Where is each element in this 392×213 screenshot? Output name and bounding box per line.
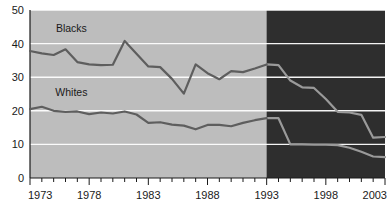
x-tick-label-1998: 1998 <box>314 189 338 201</box>
x-tick-label-1978: 1978 <box>77 189 101 201</box>
x-tick-label-1988: 1988 <box>195 189 219 201</box>
x-tick-label-2003: 2003 <box>363 189 387 201</box>
y-tick-label-50: 50 <box>12 4 24 16</box>
y-tick-label-10: 10 <box>12 138 24 150</box>
x-tick-label-1973: 1973 <box>28 189 52 201</box>
series-annotation-whites: Whites <box>55 86 87 98</box>
line-chart: 010203040501973197819831988199319982003B… <box>0 0 392 213</box>
x-tick-label-1983: 1983 <box>136 189 160 201</box>
y-tick-label-30: 30 <box>12 71 24 83</box>
shaded-projection-region <box>267 10 385 178</box>
x-tick-label-1993: 1993 <box>254 189 278 201</box>
series-annotation-blacks: Blacks <box>56 22 87 34</box>
y-tick-label-20: 20 <box>12 105 24 117</box>
chart-canvas: 010203040501973197819831988199319982003B… <box>0 0 392 213</box>
y-tick-label-40: 40 <box>12 38 24 50</box>
y-tick-label-0: 0 <box>18 172 24 184</box>
